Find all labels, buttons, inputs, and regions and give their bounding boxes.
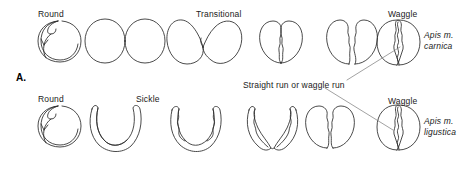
transitional-dance-1-top — [167, 20, 242, 64]
species-label-carnica-line2: carnica — [424, 41, 452, 52]
sickle-transitional-3-bottom — [306, 106, 355, 148]
round-dance-bottom — [38, 106, 81, 147]
sickle-dance-bottom — [90, 105, 141, 151]
round-dance-top — [38, 21, 81, 62]
annotation-straight-run: Straight run or waggle run — [243, 80, 345, 91]
label-waggle-bottom: Waggle — [388, 96, 417, 107]
label-waggle-top: Waggle — [388, 9, 417, 20]
species-label-ligustica-line1: Apis m. — [424, 116, 453, 127]
sickle-transitional-2-bottom — [247, 106, 297, 150]
waggle-dance-top — [377, 20, 420, 65]
label-round-top: Round — [38, 9, 64, 20]
leader-line-bottom — [325, 88, 393, 130]
sickle-transitional-1-bottom — [171, 106, 221, 151]
transitional-dance-2-top — [260, 21, 303, 63]
panel-label-a: A. — [16, 72, 26, 85]
species-label-carnica-line1: Apis m. — [424, 30, 453, 41]
waggle-dance-bottom — [377, 105, 420, 150]
transitional-dance-3-top — [327, 20, 378, 64]
bee-dance-figure: Round Transitional Waggle Apis m. carnic… — [0, 0, 468, 172]
dance-diagram-artwork — [0, 0, 468, 172]
label-transitional-top: Transitional — [196, 9, 241, 20]
label-round-bottom: Round — [38, 94, 64, 105]
species-label-ligustica-line2: ligustica — [424, 127, 456, 138]
label-sickle-bottom: Sickle — [136, 94, 160, 105]
figure-eight-dance-top — [85, 19, 165, 63]
leader-line-top — [347, 47, 400, 80]
